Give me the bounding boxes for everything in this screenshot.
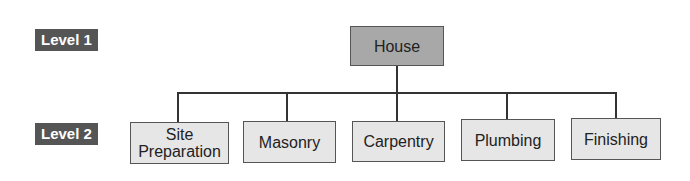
node-label: Masonry — [259, 134, 320, 151]
connector-carpentry — [396, 92, 398, 122]
root-node-house: House — [350, 26, 444, 66]
node-label: Plumbing — [475, 132, 542, 149]
node-label: Carpentry — [363, 133, 433, 150]
level-1-label: Level 1 — [35, 29, 98, 51]
connector-plumbing — [506, 92, 508, 122]
node-site-preparation: Site Preparation — [130, 122, 229, 164]
node-label: Finishing — [584, 131, 648, 148]
node-label: House — [374, 38, 420, 55]
node-plumbing: Plumbing — [461, 119, 555, 161]
node-label: Site Preparation — [135, 126, 225, 160]
connector-root-down — [396, 66, 398, 92]
level-2-label: Level 2 — [35, 123, 98, 145]
node-carpentry: Carpentry — [352, 121, 445, 162]
node-finishing: Finishing — [571, 118, 661, 160]
connector-site-preparation — [177, 92, 179, 122]
node-masonry: Masonry — [243, 121, 336, 163]
connector-masonry — [286, 92, 288, 122]
